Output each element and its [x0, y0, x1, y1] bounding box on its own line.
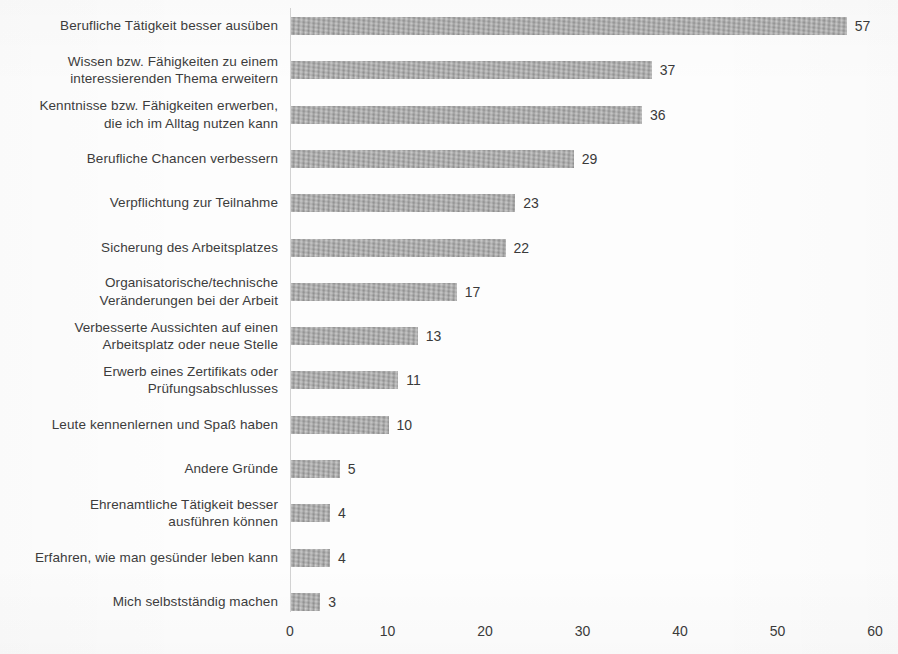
- category-label: Leute kennenlernen und Spaß haben: [0, 416, 278, 434]
- category-label: Berufliche Tätigkeit besser ausüben: [0, 17, 278, 35]
- x-tick-label: 10: [368, 622, 408, 640]
- category-label: Wissen bzw. Fähigkeiten zu einem interes…: [0, 53, 278, 88]
- bar: [291, 593, 320, 611]
- bar: [291, 106, 642, 124]
- bar-value-label: 11: [406, 371, 421, 389]
- category-label: Organisatorische/technische Veränderunge…: [0, 274, 278, 309]
- x-tick-label: 20: [465, 622, 505, 640]
- x-tick-label: 50: [758, 622, 798, 640]
- bar-value-label: 13: [426, 327, 442, 345]
- category-label: Erwerb eines Zertifikats oder Prüfungsab…: [0, 363, 278, 398]
- category-label: Ehrenamtliche Tätigkeit besser ausführen…: [0, 496, 278, 531]
- x-tick-label: 60: [855, 622, 895, 640]
- bar-value-label: 22: [514, 239, 530, 257]
- plot-area: Berufliche Tätigkeit besser ausüben57Wis…: [0, 0, 898, 654]
- bar-value-label: 4: [338, 549, 346, 567]
- x-tick-label: 40: [660, 622, 700, 640]
- x-tick-label: 0: [270, 622, 310, 640]
- bar-value-label: 23: [523, 194, 539, 212]
- bar: [291, 239, 506, 257]
- bar: [291, 504, 330, 522]
- category-label: Erfahren, wie man gesünder leben kann: [0, 549, 278, 567]
- bar-value-label: 17: [465, 283, 481, 301]
- bar-value-label: 10: [397, 416, 413, 434]
- bar: [291, 194, 515, 212]
- bar: [291, 17, 847, 35]
- category-label: Andere Gründe: [0, 460, 278, 478]
- bar-value-label: 36: [650, 106, 666, 124]
- category-label: Kenntnisse bzw. Fähigkeiten erwerben, di…: [0, 97, 278, 132]
- bar-value-label: 29: [582, 150, 598, 168]
- bar: [291, 549, 330, 567]
- bar-value-label: 57: [855, 17, 871, 35]
- category-label: Verbesserte Aussichten auf einen Arbeits…: [0, 319, 278, 354]
- bar: [291, 416, 389, 434]
- category-label: Mich selbstständig machen: [0, 593, 278, 611]
- bar: [291, 460, 340, 478]
- bar: [291, 283, 457, 301]
- bar-value-label: 37: [660, 61, 676, 79]
- category-label: Sicherung des Arbeitsplatzes: [0, 239, 278, 257]
- bar-chart: Berufliche Tätigkeit besser ausüben57Wis…: [0, 0, 898, 654]
- bar-value-label: 3: [328, 593, 336, 611]
- bar: [291, 150, 574, 168]
- bar-value-label: 5: [348, 460, 356, 478]
- bar-value-label: 4: [338, 504, 346, 522]
- bar: [291, 61, 652, 79]
- x-tick-label: 30: [563, 622, 603, 640]
- category-label: Verpflichtung zur Teilnahme: [0, 194, 278, 212]
- category-label: Berufliche Chancen verbessern: [0, 150, 278, 168]
- bar: [291, 371, 398, 389]
- bar: [291, 327, 418, 345]
